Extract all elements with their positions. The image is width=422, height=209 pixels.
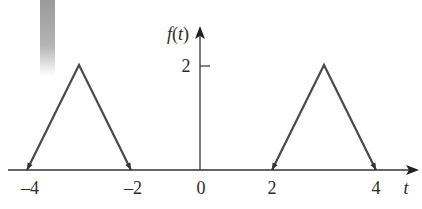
pulse-left-start-arrow-icon xyxy=(27,162,33,170)
x-tick-label-4: 4 xyxy=(372,178,381,198)
pulse-right-start-arrow-icon xyxy=(272,162,278,170)
x-tick-label-neg4: –4 xyxy=(20,178,39,198)
scan-shade-artifact xyxy=(40,0,55,76)
pulse-right-line xyxy=(272,65,376,170)
x-tick-label-neg2: –2 xyxy=(123,178,142,198)
pulse-left-end-arrow-icon xyxy=(125,162,131,170)
x-tick-label-2: 2 xyxy=(268,178,277,198)
x-axis-label: t xyxy=(403,178,409,198)
x-tick-label-0: 0 xyxy=(197,178,206,198)
pulse-left-line xyxy=(27,65,131,170)
triangular-pulse-chart: 2 f(t) t –4 –2 0 2 4 xyxy=(0,0,422,209)
y-axis-label: f(t) xyxy=(167,24,189,45)
y-tick-label: 2 xyxy=(182,56,191,76)
plot-area xyxy=(27,65,376,170)
pulse-right-end-arrow-icon xyxy=(370,162,376,170)
